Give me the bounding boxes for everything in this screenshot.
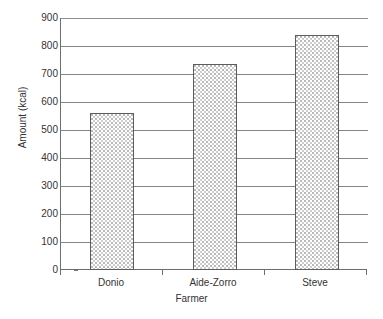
y-axis-tick-mark [74, 270, 78, 271]
y-axis-tick-label: 900 [18, 13, 58, 23]
x-axis-tick-mark [60, 270, 61, 275]
bar-donio [90, 113, 134, 270]
y-axis-tick-label: 700 [18, 69, 58, 79]
x-axis-tick-label: Steve [264, 277, 366, 289]
bar-steve [295, 35, 339, 270]
y-axis-tick-label: 800 [18, 41, 58, 51]
y-axis-tick-group: 900 800 700 600 500 400 300 200 100 0 [18, 0, 58, 319]
y-axis-tick-label: 300 [18, 181, 58, 191]
y-axis-tick-label: 100 [18, 237, 58, 247]
x-axis-title: Farmer [0, 293, 383, 304]
bar-chart: Amount (kcal) 900 800 700 600 500 400 30… [0, 0, 383, 319]
y-axis-tick-label: 600 [18, 97, 58, 107]
x-axis-tick-label: Donio [60, 277, 162, 289]
bar-aide-zorro [193, 64, 237, 270]
y-axis-tick-label: 500 [18, 125, 58, 135]
x-axis-tick-mark [366, 270, 367, 275]
x-axis-tick-label: Aide-Zorro [162, 277, 264, 289]
y-axis-tick-label: 400 [18, 153, 58, 163]
x-axis-tick-mark [162, 270, 163, 275]
y-axis-tick-label: 200 [18, 209, 58, 219]
x-axis-tick-mark [264, 270, 265, 275]
y-axis-tick-label: 0 [18, 265, 58, 275]
plot-area [60, 18, 367, 270]
gridline [61, 18, 368, 19]
